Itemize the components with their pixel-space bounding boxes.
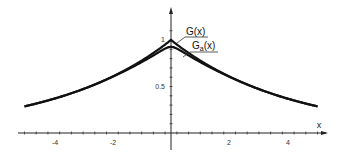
- x-tick-label: -4: [52, 139, 58, 146]
- y-axis: 1 0.5: [155, 7, 173, 150]
- chart: -4 -2 2 4 x 1 0.5 G(x) Ga(x): [0, 0, 340, 156]
- x-tick-label: -2: [110, 139, 116, 146]
- y-tick-label: 1: [161, 36, 165, 43]
- y-axis-arrow-icon: [169, 7, 173, 14]
- x-axis: -4 -2 2 4 x: [18, 120, 328, 146]
- x-tick-label: 2: [227, 139, 231, 146]
- x-axis-arrow-icon: [321, 131, 328, 135]
- legend-g-label: G(x): [186, 26, 205, 37]
- x-axis-title: x: [317, 120, 322, 130]
- y-tick-label: 0.5: [155, 83, 165, 90]
- x-tick-label: 4: [286, 139, 290, 146]
- legend-ga-label: Ga(x): [192, 40, 215, 52]
